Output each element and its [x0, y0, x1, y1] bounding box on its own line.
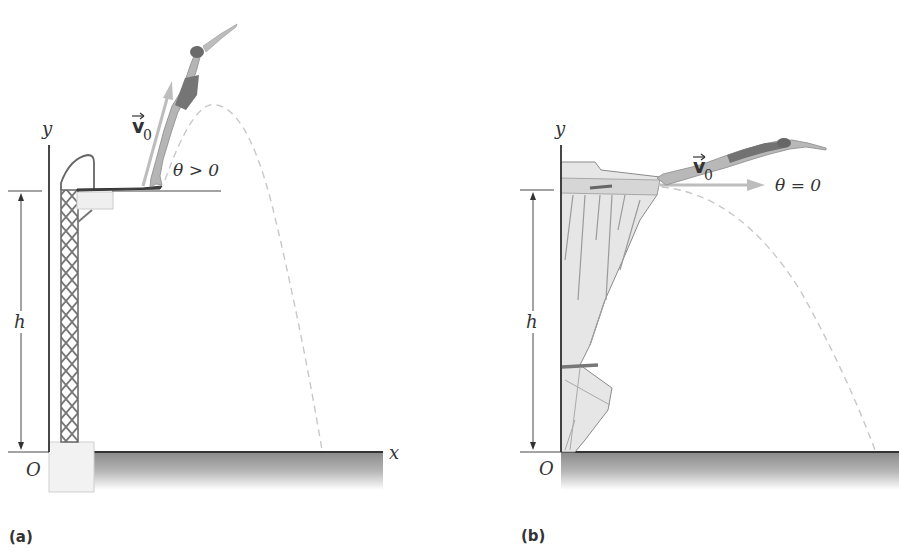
axis-y-label-a: y: [41, 118, 53, 139]
svg-text:0: 0: [143, 127, 152, 143]
trajectory-b: [662, 187, 875, 450]
panel-caption-a: (a): [9, 528, 33, 546]
angle-label-a: θ > 0: [173, 160, 219, 180]
velocity-label-a: v 0: [132, 113, 152, 143]
panel-a: h y x O v 0 θ > 0: [8, 24, 399, 492]
svg-text:0: 0: [704, 167, 713, 183]
height-label-a: h: [14, 311, 26, 332]
axis-x-label-a: x: [389, 442, 399, 463]
diving-board: [77, 186, 162, 191]
origin-label-a: O: [26, 459, 41, 480]
height-label-b: h: [526, 311, 538, 332]
trajectory-a: [165, 105, 322, 450]
origin-label-b: O: [539, 458, 554, 479]
board-support: [77, 192, 113, 209]
tower-base: [49, 442, 94, 492]
ground-a: [93, 452, 383, 490]
tower-lattice: [61, 190, 78, 442]
panel-caption-b: (b): [521, 527, 545, 545]
projectile-diagram: h y x O v 0 θ > 0: [0, 0, 899, 558]
axis-y-label-b: y: [554, 118, 566, 139]
ground-b: [561, 452, 899, 490]
angle-label-b: θ = 0: [775, 175, 821, 195]
tower-rail: [61, 155, 94, 190]
cliff: [561, 162, 660, 452]
velocity-label-b: v 0: [693, 154, 713, 183]
panel-b: h y O v 0 θ = 0: [520, 118, 899, 490]
